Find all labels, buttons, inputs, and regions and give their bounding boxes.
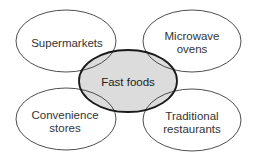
label-line: Microwave bbox=[165, 30, 220, 43]
label-microwave-ovens: Microwave ovens bbox=[165, 30, 220, 56]
label-line: ovens bbox=[165, 43, 220, 56]
label-line: Supermarkets bbox=[31, 37, 103, 50]
label-line: Convenience bbox=[31, 109, 98, 122]
label-line: restaurants bbox=[163, 123, 221, 136]
label-traditional-restaurants: Traditional restaurants bbox=[163, 110, 221, 136]
label-line: Traditional bbox=[163, 110, 221, 123]
label-convenience-stores: Convenience stores bbox=[31, 109, 98, 135]
label-supermarkets: Supermarkets bbox=[31, 37, 103, 50]
label-line: Fast foods bbox=[101, 76, 155, 89]
label-line: stores bbox=[31, 122, 98, 135]
label-fast-foods: Fast foods bbox=[101, 76, 155, 89]
